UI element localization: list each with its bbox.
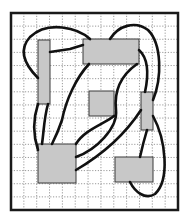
wire-c-e bbox=[76, 116, 114, 144]
logic-block-e bbox=[38, 144, 76, 183]
wire-a-b bbox=[50, 45, 83, 52]
logic-block-b bbox=[83, 39, 139, 64]
logic-block-c bbox=[89, 91, 114, 116]
wire-b-e bbox=[52, 64, 89, 144]
wire-a-e bbox=[42, 104, 48, 144]
logic-block-f bbox=[115, 157, 153, 182]
logic-block-d bbox=[141, 92, 153, 130]
wire-a-e bbox=[34, 104, 38, 150]
logic-blocks bbox=[38, 39, 153, 183]
routing-diagram bbox=[0, 0, 187, 219]
wire-b-d bbox=[139, 50, 147, 92]
wire-d-f bbox=[140, 130, 147, 157]
logic-block-a bbox=[38, 40, 50, 104]
